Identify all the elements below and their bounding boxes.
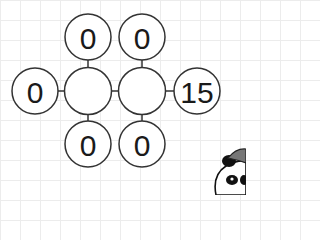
- node-bottom-left[interactable]: 0: [65, 121, 111, 167]
- node-bottom-right-value: 0: [134, 129, 151, 162]
- node-top-right-value: 0: [134, 22, 151, 55]
- node-right[interactable]: 15: [174, 68, 220, 114]
- node-top-right[interactable]: 0: [119, 14, 165, 60]
- puzzle-diagram: 0 0 0 15 0 0: [0, 0, 246, 195]
- node-left[interactable]: 0: [12, 68, 58, 114]
- node-center-left[interactable]: [65, 68, 112, 115]
- panda-mascot-icon: [215, 149, 246, 195]
- node-bottom-left-value: 0: [80, 129, 97, 162]
- node-left-value: 0: [27, 76, 44, 109]
- node-right-value: 15: [180, 76, 213, 109]
- node-bottom-right[interactable]: 0: [119, 121, 165, 167]
- node-top-left[interactable]: 0: [65, 14, 111, 60]
- node-top-left-value: 0: [80, 22, 97, 55]
- node-center-right[interactable]: [119, 68, 166, 115]
